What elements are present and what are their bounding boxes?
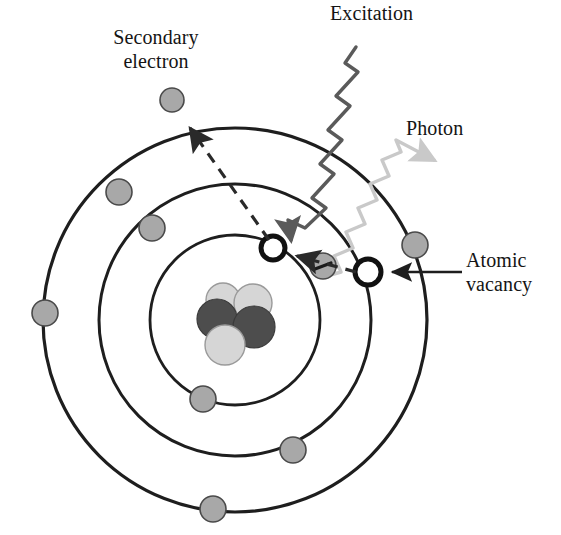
label-photon: Photon [406,117,526,141]
vacancy-inner-shell [261,236,285,260]
electron-inner-bottom [190,386,216,412]
label-secondary-electron: Secondary electron [86,26,226,73]
electron-outer-right [402,232,428,258]
atom-diagram: Secondary electron Excitation Photon Ato… [0,0,561,535]
electron-outer-bottom [200,496,226,522]
electron-outer-upper-left [106,179,132,205]
electron-outer-left [32,300,58,326]
electron-middle-bottom-right [280,437,306,463]
label-excitation: Excitation [330,2,470,26]
nucleon-light-bottom [205,325,245,365]
nucleus [197,283,275,365]
electron-secondary-emitted [160,88,184,112]
electron-middle-upper-left [139,215,165,241]
vacancy-outer-position [355,259,381,285]
excitation-wave [288,47,358,240]
label-atomic-vacancy: Atomic vacancy [466,249,561,296]
